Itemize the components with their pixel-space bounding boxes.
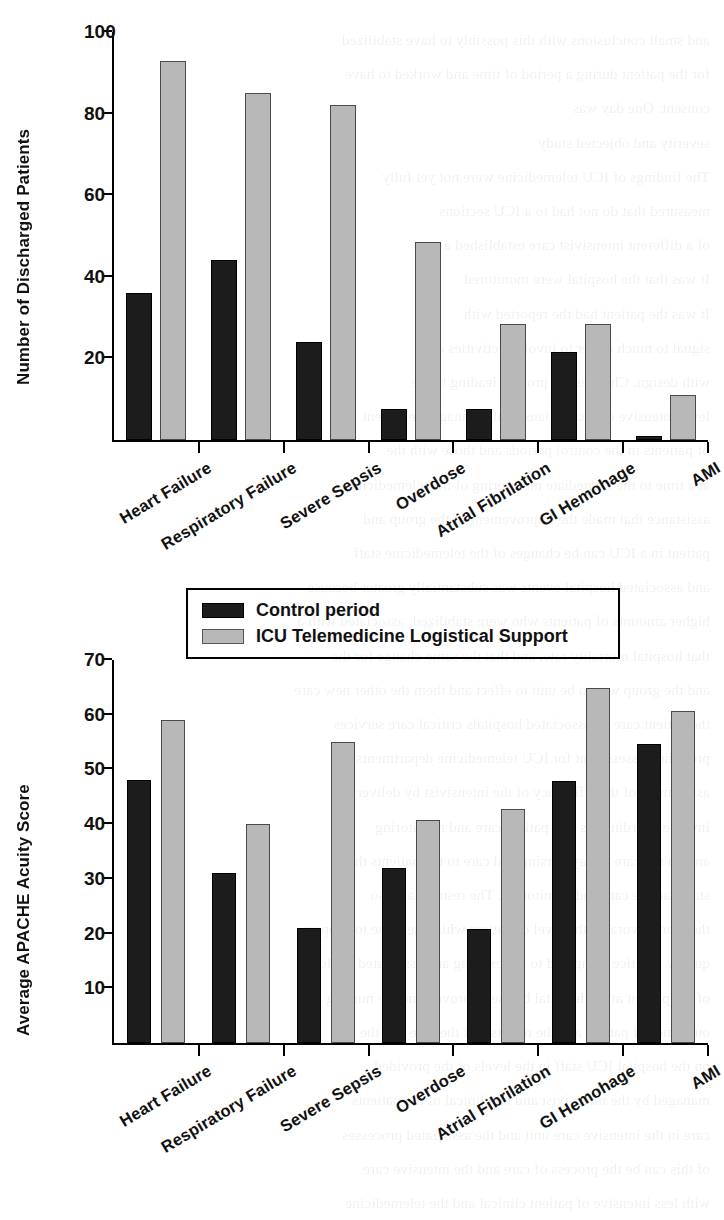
- bar-control: [636, 436, 662, 440]
- bar-control: [382, 868, 406, 1043]
- bar-telemedicine: [670, 395, 696, 440]
- legend-swatch-control-icon: [202, 603, 244, 618]
- x-axis-category-label: Overdose: [393, 1061, 469, 1117]
- y-tick-label: 30: [84, 868, 98, 890]
- bar-control: [296, 342, 322, 440]
- bar-telemedicine: [160, 61, 186, 440]
- legend-row-control: Control period: [202, 597, 604, 623]
- chart-discharged-patients: Number of Discharged Patients 2040608010…: [0, 0, 724, 560]
- chart-legend: Control period ICU Telemedicine Logistic…: [186, 588, 620, 659]
- x-axis-category-label: GI Hemohage: [536, 1061, 639, 1133]
- y-tick-label: 20: [84, 347, 98, 369]
- legend-row-telemedicine: ICU Telemedicine Logistical Support: [202, 623, 604, 649]
- x-axis-labels-chart1: Heart FailureRespiratory FailureSevere S…: [112, 442, 708, 562]
- plot-area-chart2: 10203040506070 Heart FailureRespiratory …: [112, 660, 708, 1045]
- bar-telemedicine: [245, 93, 271, 440]
- chart-apache-acuity-score: Average APACHE Acuity Score 102030405060…: [0, 648, 724, 1220]
- x-axis-category-label: Overdose: [393, 458, 469, 514]
- legend-swatch-telemedicine-icon: [202, 629, 244, 644]
- bars-container-chart2: [114, 660, 708, 1043]
- bar-control: [211, 260, 237, 440]
- y-tick-label: 40: [84, 813, 98, 835]
- y-axis-label-chart2: Average APACHE Acuity Score: [14, 696, 34, 1036]
- y-tick-label: 100: [84, 21, 98, 43]
- y-tick-label: 40: [84, 266, 98, 288]
- bar-control: [126, 293, 152, 440]
- legend-label-control: Control period: [256, 600, 380, 621]
- plot-area-chart1: 20406080100 Heart FailureRespiratory Fai…: [112, 32, 708, 442]
- y-tick-label: 60: [84, 704, 98, 726]
- bars-container-chart1: [114, 32, 708, 440]
- bar-telemedicine: [500, 324, 526, 440]
- x-axis-category-label: GI Hemohage: [536, 458, 639, 530]
- bar-telemedicine: [671, 711, 695, 1043]
- x-axis-labels-chart2: Heart FailureRespiratory FailureSevere S…: [112, 1045, 708, 1165]
- bar-control: [467, 929, 491, 1043]
- bar-control: [381, 409, 407, 440]
- bar-telemedicine: [161, 720, 185, 1043]
- bar-control: [552, 781, 576, 1043]
- bar-telemedicine: [586, 688, 610, 1043]
- bar-telemedicine: [331, 742, 355, 1043]
- bar-control: [297, 928, 321, 1043]
- bar-control: [466, 409, 492, 440]
- bar-control: [127, 780, 151, 1043]
- bar-telemedicine: [330, 105, 356, 440]
- legend-label-telemedicine: ICU Telemedicine Logistical Support: [256, 626, 568, 647]
- bar-telemedicine: [415, 242, 441, 440]
- y-tick-label: 20: [84, 923, 98, 945]
- x-axis-category-label: AMI: [688, 458, 724, 490]
- y-axis-label-chart1: Number of Discharged Patients: [14, 55, 34, 385]
- y-tick-label: 60: [84, 184, 98, 206]
- y-tick-label: 10: [84, 977, 98, 999]
- bar-control: [637, 744, 661, 1043]
- y-tick-label: 50: [84, 758, 98, 780]
- bar-control: [551, 352, 577, 440]
- bar-telemedicine: [501, 809, 525, 1043]
- bar-telemedicine: [246, 824, 270, 1043]
- y-tick-label: 70: [84, 649, 98, 671]
- bar-control: [212, 873, 236, 1043]
- x-axis-category-label: AMI: [688, 1061, 724, 1093]
- y-tick-label: 80: [84, 103, 98, 125]
- bar-telemedicine: [416, 820, 440, 1043]
- bar-telemedicine: [585, 324, 611, 440]
